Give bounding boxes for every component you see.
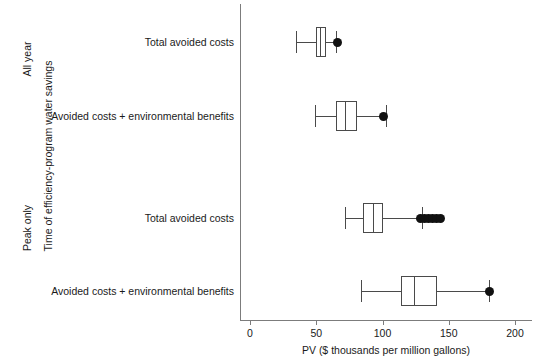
box-outlier-point <box>333 38 342 47</box>
box-iqr <box>336 101 357 131</box>
box-median-line <box>414 276 415 306</box>
x-tick-label: 100 <box>363 327 403 339</box>
box-iqr <box>401 276 437 306</box>
category-label-2: Avoided costs + environmental benefits <box>36 110 234 122</box>
box-outlier-point <box>485 287 494 296</box>
box-whisker-left <box>361 291 401 292</box>
x-tick-mark <box>250 320 251 325</box>
x-tick-mark <box>316 320 317 325</box>
box-whisker-left <box>296 42 316 43</box>
y-axis-title: Time of efficiency-program water savings <box>42 16 54 296</box>
group-label-all-year: All year <box>21 9 33 109</box>
box-whisker-cap-low <box>345 207 346 229</box>
box-median-line <box>345 101 346 131</box>
x-tick-mark <box>515 320 516 325</box>
box-median-line <box>373 203 374 233</box>
box-plot-chart: Time of efficiency-program water savings… <box>0 0 544 364</box>
y-axis-line <box>240 4 241 320</box>
box-whisker-cap-low <box>296 31 297 53</box>
category-label-3: Total avoided costs <box>36 212 234 224</box>
x-tick-mark <box>383 320 384 325</box>
box-whisker-right <box>437 291 489 292</box>
box-median-line <box>320 27 321 57</box>
box-whisker-left <box>315 116 336 117</box>
group-label-peak-only: Peak only <box>21 178 33 278</box>
category-label-4: Avoided costs + environmental benefits <box>36 285 234 297</box>
x-tick-label: 0 <box>230 327 270 339</box>
x-axis-title: PV ($ thousands per million gallons) <box>240 344 532 356</box>
box-outlier-point <box>436 214 445 223</box>
x-tick-mark <box>449 320 450 325</box>
x-tick-label: 150 <box>429 327 469 339</box>
x-tick-label: 200 <box>495 327 535 339</box>
box-whisker-cap-low <box>315 105 316 127</box>
box-outlier-point <box>379 112 388 121</box>
category-label-1: Total avoided costs <box>36 36 234 48</box>
box-whisker-left <box>345 218 362 219</box>
box-whisker-cap-low <box>361 280 362 302</box>
x-axis-line <box>240 320 532 321</box>
x-tick-label: 50 <box>296 327 336 339</box>
